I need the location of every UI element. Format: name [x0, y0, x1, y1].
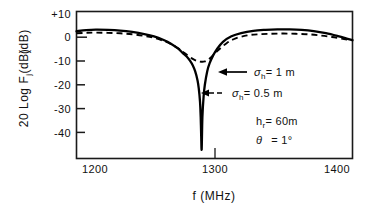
- y-axis-title-main: 20 Log F: [17, 76, 31, 127]
- annotation-sigma-1m-text: = 1 m: [266, 66, 295, 78]
- y-tick-label-3: -20: [54, 79, 71, 91]
- chart-svg: +10 0 -10 -20 -30 -40 1200 1300 1400 f (…: [0, 0, 378, 214]
- annotation-param-hr: hr= 60m: [256, 115, 298, 130]
- annotation-labels: σh= 1 m σh= 0.5 m hr= 60m θ= 1°: [232, 66, 298, 146]
- annotation-param-theta: θ= 1°: [256, 134, 292, 146]
- x-tick-label-1300: 1300: [202, 163, 228, 175]
- x-tick-label-1200: 1200: [82, 163, 108, 175]
- y-tick-label-1: 0: [64, 31, 71, 43]
- series-line-sigma-1m: [77, 29, 353, 149]
- y-axis-units-text: (dB): [17, 29, 31, 54]
- svg-text:20 Log Fj(dB): 20 Log Fj(dB): [17, 49, 33, 127]
- annotation-param-theta-symbol: θ: [256, 134, 262, 146]
- annotation-sigma-05m: σh= 0.5 m: [232, 87, 283, 102]
- annotation-sigma-1m-symbol: σ: [254, 66, 261, 78]
- y-tick-label-0: +10: [51, 8, 71, 20]
- y-tick-labels: +10 0 -10 -20 -30 -40: [51, 8, 71, 139]
- x-axis-title: f (MHz): [193, 189, 236, 203]
- annotation-sigma-05m-text: = 0.5 m: [244, 87, 283, 99]
- chart-figure: +10 0 -10 -20 -30 -40 1200 1300 1400 f (…: [0, 0, 378, 214]
- y-tick-label-2: -10: [54, 55, 71, 67]
- y-axis-title-units-group: (dB): [17, 29, 31, 54]
- y-axis-title: 20 Log Fj(dB): [17, 49, 33, 127]
- annotation-sigma-05m-symbol: σ: [232, 87, 239, 99]
- x-tick-label-1400: 1400: [324, 163, 350, 175]
- series-line-sigma-05m: [77, 33, 353, 62]
- x-tick-labels: 1200 1300 1400: [82, 163, 350, 175]
- y-tick-label-4: -30: [54, 103, 71, 115]
- annotation-param-hr-text: = 60m: [265, 115, 297, 127]
- y-tick-marks: [77, 37, 88, 132]
- annotation-param-theta-text: = 1°: [271, 134, 292, 146]
- annotation-sigma-1m: σh= 1 m: [254, 66, 295, 81]
- y-tick-label-5: -40: [54, 127, 71, 139]
- arrow-sigma-1m-icon: [218, 68, 247, 76]
- data-series-group: [77, 29, 353, 149]
